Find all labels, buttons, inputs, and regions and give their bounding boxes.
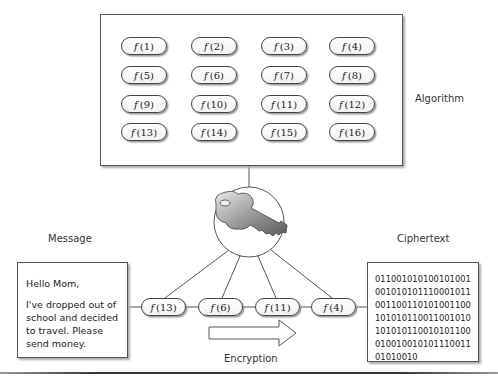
algorithm-function-pill: f(14)	[191, 123, 237, 141]
function-arg: (11)	[270, 302, 291, 313]
function-symbol: f	[339, 99, 343, 110]
encryption-arrow-icon	[209, 320, 296, 346]
bottom-divider	[0, 372, 498, 374]
chain-function-pill: f(6)	[198, 298, 243, 316]
message-label: Message	[48, 233, 92, 244]
function-arg: (6)	[210, 70, 224, 81]
algorithm-function-pill: f(4)	[329, 37, 375, 55]
algorithm-function-pill: f(8)	[329, 66, 375, 84]
function-arg: (13)	[156, 302, 177, 313]
function-arg: (8)	[348, 70, 362, 81]
algorithm-function-pill: f(15)	[261, 123, 307, 141]
algorithm-function-pill: f(6)	[191, 66, 237, 84]
function-arg: (13)	[137, 127, 158, 138]
function-symbol: f	[211, 302, 215, 313]
algorithm-function-pill: f(10)	[191, 95, 237, 113]
function-symbol: f	[204, 70, 208, 81]
function-symbol: f	[131, 127, 135, 138]
function-symbol: f	[201, 99, 205, 110]
message-body-line: to travel. Please	[26, 324, 119, 337]
chain-function-pill: f(11)	[255, 298, 300, 316]
function-arg: (14)	[207, 127, 228, 138]
function-arg: (12)	[345, 99, 366, 110]
function-arg: (3)	[280, 41, 294, 52]
function-symbol: f	[204, 41, 208, 52]
function-arg: (9)	[140, 99, 154, 110]
message-body-line: I've dropped out of	[26, 298, 119, 311]
algorithm-function-pill: f(11)	[261, 95, 307, 113]
ciphertext-line: 001100110101001100	[375, 299, 473, 312]
function-symbol: f	[342, 70, 346, 81]
function-symbol: f	[150, 302, 154, 313]
function-arg: (6)	[216, 302, 230, 313]
chain-function-pill: f(4)	[311, 298, 356, 316]
algorithm-function-pill: f(13)	[121, 123, 167, 141]
function-arg: (4)	[348, 41, 362, 52]
algorithm-function-pill: f(16)	[329, 123, 375, 141]
function-arg: (7)	[280, 70, 294, 81]
algorithm-function-pill: f(2)	[191, 37, 237, 55]
function-symbol: f	[134, 41, 138, 52]
function-symbol: f	[271, 99, 275, 110]
function-arg: (16)	[345, 127, 366, 138]
message-body-line: send money.	[26, 337, 119, 350]
function-symbol: f	[274, 41, 278, 52]
function-arg: (15)	[277, 127, 298, 138]
encryption-label: Encryption	[224, 353, 278, 364]
message-box: Hello Mom, I've dropped out of school an…	[17, 262, 128, 358]
function-arg: (1)	[140, 41, 154, 52]
function-symbol: f	[339, 127, 343, 138]
function-symbol: f	[324, 302, 328, 313]
function-arg: (2)	[210, 41, 224, 52]
ciphertext-label: Ciphertext	[397, 233, 449, 244]
algorithm-function-pill: f(3)	[261, 37, 307, 55]
ciphertext-box: 011001010100101001 001010101110001011 00…	[367, 262, 479, 362]
algorithm-function-pill: f(1)	[121, 37, 167, 55]
chain-function-pill: f(13)	[141, 298, 186, 316]
function-symbol: f	[342, 41, 346, 52]
ciphertext-line: 001010101110001011	[375, 286, 473, 299]
function-symbol: f	[264, 302, 268, 313]
algorithm-label: Algorithm	[415, 93, 464, 104]
algorithm-function-pill: f(7)	[261, 66, 307, 84]
function-arg: (11)	[277, 99, 298, 110]
ciphertext-line: 01010010	[375, 351, 473, 364]
function-symbol: f	[134, 70, 138, 81]
function-arg: (10)	[207, 99, 228, 110]
message-body-line: school and decided	[26, 311, 119, 324]
function-symbol: f	[134, 99, 138, 110]
function-symbol: f	[201, 127, 205, 138]
algorithm-function-pill: f(12)	[329, 95, 375, 113]
algorithm-function-pill: f(9)	[121, 95, 167, 113]
ciphertext-line: 101010110011001010	[375, 312, 473, 325]
ciphertext-line: 010010010101110011	[375, 338, 473, 351]
algorithm-function-pill: f(5)	[121, 66, 167, 84]
function-arg: (4)	[329, 302, 343, 313]
function-arg: (5)	[140, 70, 154, 81]
message-greeting: Hello Mom,	[26, 277, 119, 290]
ciphertext-line: 011001010100101001	[375, 273, 473, 286]
ciphertext-line: 101010110010101100	[375, 325, 473, 338]
function-symbol: f	[274, 70, 278, 81]
function-symbol: f	[271, 127, 275, 138]
